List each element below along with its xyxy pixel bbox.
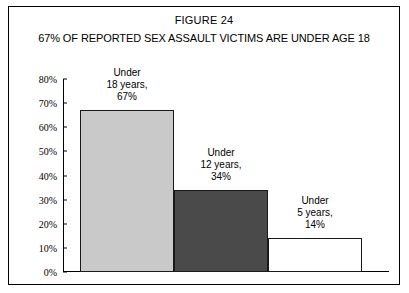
bar-label-line: 14% xyxy=(267,219,363,231)
bar-label-line: 5 years, xyxy=(267,207,363,219)
bar xyxy=(268,238,362,272)
bar-label-line: 34% xyxy=(173,171,269,183)
y-axis-tick-mark xyxy=(63,199,67,200)
bar-value-label: Under5 years,14% xyxy=(267,195,363,231)
y-axis-tick-mark xyxy=(63,223,67,224)
y-axis-tick-mark xyxy=(63,175,67,176)
bar-label-line: 12 years, xyxy=(173,159,269,171)
bar-label-line: 18 years, xyxy=(79,79,175,91)
y-axis-tick-mark xyxy=(63,247,67,248)
y-axis-tick-mark xyxy=(63,151,67,152)
y-axis-tick-label: 70% xyxy=(13,98,57,109)
bar xyxy=(174,190,268,272)
figure-frame: FIGURE 24 67% OF REPORTED SEX ASSAULT VI… xyxy=(8,6,400,285)
y-axis-tick-mark xyxy=(63,79,67,80)
y-axis-tick-label: 0% xyxy=(13,267,57,278)
figure-title-block: FIGURE 24 67% OF REPORTED SEX ASSAULT VI… xyxy=(9,13,399,46)
y-axis-tick-label: 30% xyxy=(13,194,57,205)
bar xyxy=(80,110,174,272)
bar-label-line: Under xyxy=(79,67,175,79)
y-axis-tick-label: 80% xyxy=(13,74,57,85)
figure-subtitle: 67% OF REPORTED SEX ASSAULT VICTIMS ARE … xyxy=(9,31,399,46)
y-axis-tick-label: 50% xyxy=(13,146,57,157)
bar-chart-plot-area: 80%70%60%50%40%30%20%10%0% Under18 years… xyxy=(63,79,389,272)
y-axis-tick-mark xyxy=(63,103,67,104)
y-axis-tick-label: 10% xyxy=(13,242,57,253)
figure-number: FIGURE 24 xyxy=(9,13,399,28)
bar-value-label: Under18 years,67% xyxy=(79,67,175,103)
y-axis-tick-mark xyxy=(63,127,67,128)
y-axis-tick-label: 20% xyxy=(13,218,57,229)
bar-label-line: Under xyxy=(173,147,269,159)
bar-value-label: Under12 years,34% xyxy=(173,147,269,183)
y-axis-tick-label: 40% xyxy=(13,170,57,181)
y-axis-tick-mark xyxy=(63,272,67,273)
bar-label-line: 67% xyxy=(79,91,175,103)
y-axis-tick-label: 60% xyxy=(13,122,57,133)
bar-label-line: Under xyxy=(267,195,363,207)
